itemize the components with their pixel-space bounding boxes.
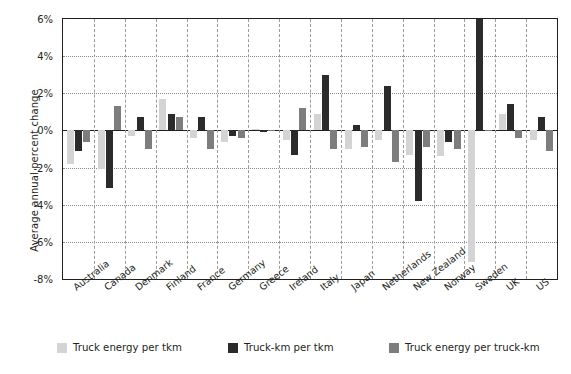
bar: [221, 130, 228, 141]
bar: [207, 130, 214, 149]
legend-swatch: [228, 343, 238, 353]
legend-swatch: [389, 343, 399, 353]
bar: [168, 114, 175, 131]
bar: [353, 125, 360, 131]
bar: [499, 114, 506, 131]
bar: [283, 130, 290, 139]
bar: [106, 130, 113, 188]
y-tick-label: -4%: [9, 199, 53, 210]
bar-group: [279, 19, 310, 279]
bar: [176, 117, 183, 130]
bar: [437, 130, 444, 156]
bar: [530, 130, 537, 139]
bar: [75, 130, 82, 150]
bar-group: [63, 19, 94, 279]
bar-group: [495, 19, 526, 279]
bar: [190, 130, 197, 137]
bar: [375, 130, 382, 139]
bar: [454, 130, 461, 149]
bar: [546, 130, 553, 150]
bar: [128, 130, 135, 136]
legend-divider: [26, 338, 545, 339]
plot-inner: [63, 19, 557, 279]
y-tick-label: 2%: [9, 88, 53, 99]
bar: [476, 19, 483, 130]
y-tick-label: -6%: [9, 236, 53, 247]
legend-item: Truck energy per truck-km: [389, 342, 540, 353]
bar: [229, 130, 236, 136]
bar-group: [310, 19, 341, 279]
bar: [159, 99, 166, 131]
legend-label: Truck energy per tkm: [73, 342, 182, 353]
bar-group: [434, 19, 465, 279]
bar-group: [341, 19, 372, 279]
bar: [485, 130, 492, 131]
bar: [507, 104, 514, 130]
bar: [268, 130, 275, 131]
bar: [515, 130, 522, 137]
chart-legend: Truck energy per tkmTruck-km per tkmTruc…: [0, 338, 571, 360]
bar-group: [464, 19, 495, 279]
bar: [137, 117, 144, 130]
bar-group: [187, 19, 218, 279]
bar: [238, 130, 245, 137]
bar: [468, 130, 475, 262]
bar-group: [372, 19, 403, 279]
bar-group: [248, 19, 279, 279]
bar-group: [156, 19, 187, 279]
legend-swatch: [57, 343, 67, 353]
y-tick-label: 4%: [9, 51, 53, 62]
plot-area: [62, 18, 558, 280]
bar: [345, 130, 352, 149]
bar: [299, 108, 306, 130]
bar: [384, 86, 391, 131]
bar: [415, 130, 422, 201]
bar: [392, 130, 399, 162]
bar: [83, 130, 90, 141]
bar: [361, 130, 368, 147]
bar: [291, 130, 298, 154]
bar: [406, 130, 413, 154]
y-tick-label: 6%: [9, 14, 53, 25]
y-tick-label: -2%: [9, 162, 53, 173]
bar: [67, 130, 74, 163]
bar: [198, 117, 205, 130]
bar: [538, 117, 545, 130]
bar: [330, 130, 337, 149]
bar: [145, 130, 152, 149]
bar-group: [217, 19, 248, 279]
bar: [445, 130, 452, 141]
bar-group: [125, 19, 156, 279]
legend-label: Truck-km per tkm: [244, 342, 334, 353]
bar-chart: Average annual percent change 6%4%2%0%-2…: [0, 0, 571, 374]
bar-group: [526, 19, 557, 279]
y-tick-label: 0%: [9, 125, 53, 136]
legend-label: Truck energy per truck-km: [405, 342, 540, 353]
legend-item: Truck-km per tkm: [228, 342, 334, 353]
bar: [423, 130, 430, 147]
bar: [260, 130, 267, 132]
bar: [322, 75, 329, 131]
bar: [98, 130, 105, 169]
bar-group: [403, 19, 434, 279]
bar-group: [94, 19, 125, 279]
legend-item: Truck energy per tkm: [57, 342, 182, 353]
y-tick-label: -8%: [9, 274, 53, 285]
bar: [114, 106, 121, 130]
bar: [314, 114, 321, 131]
bar: [252, 129, 259, 131]
